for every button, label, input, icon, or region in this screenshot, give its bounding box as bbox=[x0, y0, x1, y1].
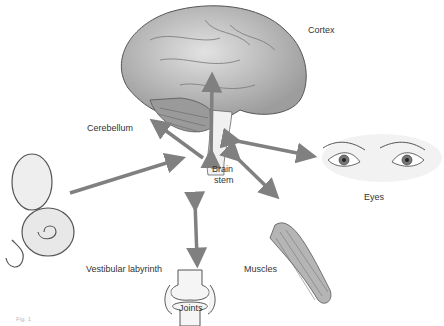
label-brain-stem-line1: Brain bbox=[212, 164, 233, 174]
label-cerebellum: Cerebellum bbox=[87, 123, 133, 133]
label-brain-stem-line2: stem bbox=[214, 175, 234, 185]
label-vestibular-labyrinth: Vestibular labyrinth bbox=[86, 264, 162, 274]
muscle-illustration bbox=[270, 223, 331, 303]
figure-caption: Fig. 1 bbox=[16, 316, 31, 322]
label-joints: Joints bbox=[179, 303, 203, 313]
label-eyes: Eyes bbox=[364, 192, 384, 202]
label-cortex: Cortex bbox=[308, 25, 335, 35]
joint-illustration bbox=[165, 270, 215, 326]
eyes-illustration bbox=[322, 134, 442, 182]
diagram-canvas bbox=[0, 0, 444, 326]
vestibular-labyrinth-illustration bbox=[6, 154, 74, 267]
label-muscles: Muscles bbox=[244, 264, 277, 274]
